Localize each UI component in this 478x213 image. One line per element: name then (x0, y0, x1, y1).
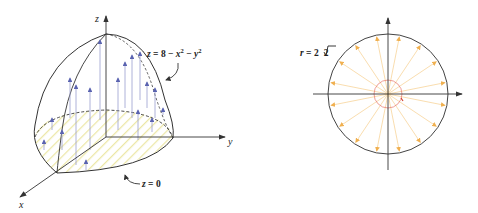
base-eq-value: 0 (156, 179, 161, 189)
x-axis-label: x (18, 199, 24, 210)
eq-y-exp: 2 (198, 47, 201, 54)
surface-callout-arrow (166, 63, 178, 80)
radius-coef: 2 (314, 48, 319, 58)
eq-equals: = (151, 49, 161, 59)
base-eq-equals: = (146, 179, 156, 189)
right-figure: r = 22 (300, 18, 462, 170)
base-callout-arrow (125, 175, 140, 184)
base-equation-label: z = 0 (141, 179, 161, 189)
y-axis-label: y (227, 136, 233, 147)
inner-circle-arrow (401, 98, 403, 101)
surface-equation-label: z = 8 − x2 − y2 (146, 47, 201, 59)
z-axis-label: z (94, 13, 99, 24)
radius-equals: = (304, 48, 314, 58)
diagram-canvas: z y x z = 8 − x2 − y2 z = 0 r = 22 (0, 0, 478, 213)
eq-minus-2: − (184, 49, 194, 59)
eq-minus: − (166, 49, 176, 59)
left-figure: z y x z = 8 − x2 − y2 z = 0 (18, 13, 233, 210)
